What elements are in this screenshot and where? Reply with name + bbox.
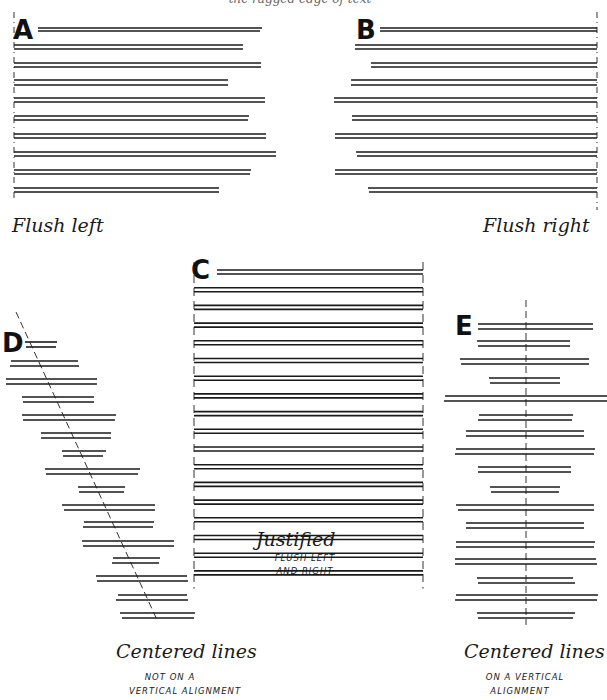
panel-c-subtitle-2: AND RIGHT [250, 566, 360, 576]
panel-e-subtitle-2: ALIGNMENT [460, 686, 580, 696]
panel-b-title: Flush right [483, 214, 590, 236]
panel-b-letter: B [356, 17, 376, 43]
alignment-diagram [0, 0, 607, 700]
panel-a-title: Flush left [12, 214, 104, 236]
panel-d-subtitle-1: NOT ON A [110, 672, 230, 682]
panel-a-letter: A [13, 17, 33, 43]
panel-e-letter: E [455, 313, 473, 339]
panel-d-subtitle-2: VERTICAL ALIGNMENT [100, 686, 270, 696]
panel-e-subtitle-1: ON A VERTICAL [460, 672, 590, 682]
panel-c-letter: C [191, 257, 210, 283]
panel-e-title: Centered lines [464, 640, 605, 662]
panel-c-subtitle-1: FLUSH LEFT [250, 553, 360, 563]
panel-d-title: Centered lines [116, 640, 257, 662]
panel-d-letter: D [2, 330, 24, 356]
panel-c-title: Justified [256, 528, 335, 550]
